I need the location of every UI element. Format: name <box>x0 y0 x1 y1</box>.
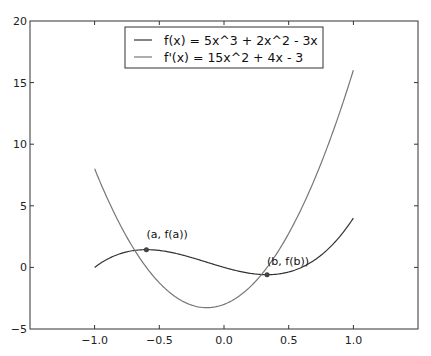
chart-canvas: 20 15 10 5 0 −5 −1.0 −0.5 0.0 0.5 1.0 (a… <box>0 0 431 356</box>
x-tick-labels: −1.0 −0.5 0.0 0.5 1.0 <box>81 334 362 347</box>
y-tick-label: 0 <box>20 261 27 274</box>
legend: f(x) = 5x^3 + 2x^2 - 3x f'(x) = 15x^2 + … <box>125 27 323 68</box>
annotation-a: (a, f(a)) <box>146 228 188 241</box>
x-tick-label: −0.5 <box>146 334 173 347</box>
x-tick-label: 0.5 <box>280 334 298 347</box>
y-tick-labels: 20 15 10 5 0 −5 <box>11 15 27 336</box>
annotation-b: (b, f(b)) <box>267 255 309 268</box>
legend-label-f: f(x) = 5x^3 + 2x^2 - 3x <box>164 33 318 48</box>
point-a-marker <box>144 247 149 252</box>
legend-label-f-prime: f'(x) = 15x^2 + 4x - 3 <box>164 50 303 65</box>
x-tick-label: −1.0 <box>81 334 108 347</box>
y-tick-label: 20 <box>13 15 27 28</box>
y-tick-label: 15 <box>13 77 27 90</box>
x-tick-label: 0.0 <box>215 334 233 347</box>
y-tick-label: 5 <box>20 200 27 213</box>
y-tick-label: −5 <box>11 323 27 336</box>
y-tick-label: 10 <box>13 138 27 151</box>
x-tick-label: 1.0 <box>345 334 363 347</box>
point-b-marker <box>265 272 270 277</box>
